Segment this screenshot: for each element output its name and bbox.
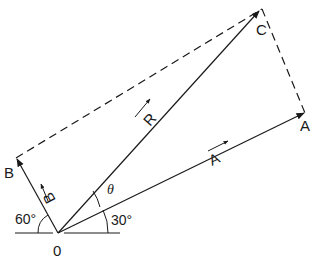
label-angle-60: 60° [15, 211, 36, 227]
dashed-B-C [16, 9, 262, 158]
label-vector-B: B [39, 190, 59, 207]
label-point-A: A [300, 117, 310, 134]
label-point-B: B [4, 164, 14, 181]
label-origin: 0 [53, 242, 61, 259]
label-vector-R: R [140, 109, 160, 129]
arc-30-degree [103, 210, 108, 233]
label-point-C: C [256, 21, 267, 38]
label-angle-30: 30° [111, 212, 132, 228]
label-vector-A: A [206, 149, 222, 169]
arc-60-degree [38, 215, 48, 233]
label-angle-theta: θ [107, 182, 114, 197]
arc-theta [93, 191, 100, 207]
diagram-canvas: C A B 0 A R B 30° 60° θ [0, 0, 313, 261]
dashed-C-A [262, 9, 305, 113]
arrow-icon-A [208, 141, 228, 151]
vector-diagram: C A B 0 A R B 30° 60° θ [0, 0, 313, 261]
vector-A [58, 113, 304, 233]
